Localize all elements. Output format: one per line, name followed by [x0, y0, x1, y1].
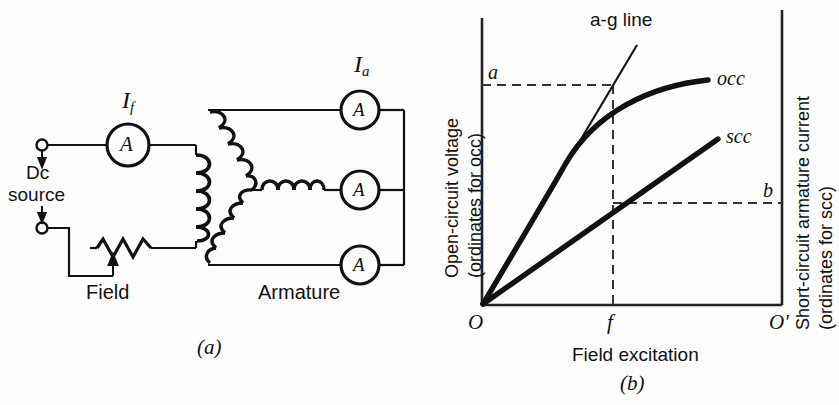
tick-label-b: b — [763, 180, 773, 200]
armature-winding-upper — [210, 112, 256, 190]
field-wiper-return-wire — [48, 228, 114, 276]
y-axis-label-left-line1: Open-circuit voltage — [443, 118, 461, 278]
panel-a-caption: (a) — [197, 337, 222, 358]
field-coil — [196, 155, 210, 241]
curve-scc-label: scc — [726, 126, 752, 146]
field-current-label: If — [122, 88, 134, 115]
armature-current-label: Ia — [354, 52, 369, 79]
armature-circuit-group — [206, 91, 404, 284]
rheostat-wiper-arrow — [109, 254, 118, 276]
dc-source-terminal-top — [37, 140, 48, 151]
armature-ammeter-bottom-letter: A — [353, 255, 365, 274]
y-axis-label-left-line2: (ordinates for occ) — [466, 133, 484, 278]
curve-occ-label: occ — [717, 68, 745, 88]
y-axis-label-right-line2: (ordinates for scc) — [817, 186, 835, 330]
figure-container: If Ia A A A A Dc source Field Armature (… — [0, 0, 839, 405]
origin-label-left: O — [468, 312, 483, 333]
curve-scc — [483, 139, 718, 304]
figure-svg — [0, 0, 839, 405]
armature-winding-middle — [262, 181, 324, 190]
armature-current-subscript: a — [362, 63, 369, 79]
dc-source-label-line2: source — [8, 185, 65, 204]
y-axis-label-right-line1: Short-circuit armature current — [794, 96, 812, 330]
field-rheostat — [97, 239, 151, 257]
field-section-label: Field — [86, 282, 129, 302]
origin-label-right: O' — [769, 312, 789, 333]
armature-ammeter-top-letter: A — [353, 100, 365, 119]
armature-ammeter-middle-letter: A — [353, 180, 365, 199]
ag-line-annotation: a-g line — [590, 10, 652, 29]
panel-b-caption: (b) — [620, 373, 645, 394]
field-ammeter-letter: A — [120, 134, 133, 155]
armature-section-label: Armature — [258, 282, 340, 302]
tick-label-a: a — [488, 62, 498, 82]
x-axis-label: Field excitation — [572, 345, 699, 364]
dc-source-label-line1: Dc — [26, 163, 49, 182]
field-current-subscript: f — [130, 99, 134, 115]
armature-winding-lower — [206, 190, 252, 263]
tick-label-f: f — [607, 312, 613, 333]
